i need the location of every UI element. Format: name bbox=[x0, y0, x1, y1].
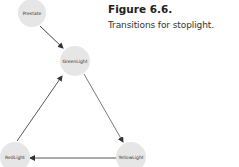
figure-title: Figure 6.6. bbox=[108, 3, 214, 16]
figure-caption: Figure 6.6. Transitions for stoplight. bbox=[108, 3, 214, 32]
node-label: YellowLight bbox=[117, 155, 143, 160]
node-label: GreenLight bbox=[63, 59, 88, 64]
figure-description: Transitions for stoplight. bbox=[108, 19, 214, 32]
node-redlight: RedLight bbox=[0, 142, 30, 167]
node-label: RedLight bbox=[5, 155, 25, 160]
edge-prestate-to-green bbox=[40, 26, 63, 48]
node-prestate: Prestate bbox=[18, 0, 46, 27]
node-label: Prestate bbox=[23, 11, 42, 16]
node-yellowlight: YellowLight bbox=[116, 142, 146, 167]
edge-red-to-green bbox=[17, 76, 62, 141]
edge-green-to-yellow bbox=[84, 74, 123, 142]
node-greenlight: GreenLight bbox=[60, 46, 90, 76]
